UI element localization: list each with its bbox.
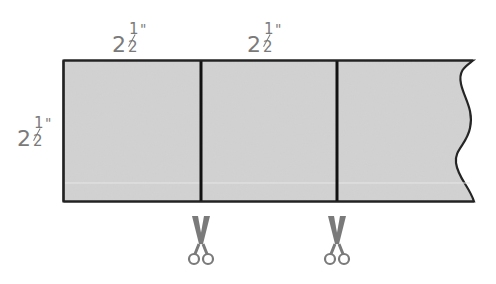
scissors-icon (323, 216, 351, 268)
inch-mark: " (45, 116, 50, 130)
dimension-whole: 2 (247, 34, 261, 56)
scissors-icon (187, 216, 215, 268)
dimension-whole: 2 (17, 128, 31, 150)
dimension-denominator: 2 (263, 40, 273, 55)
dimension-denominator: 2 (128, 40, 138, 55)
inch-mark: " (140, 22, 145, 36)
dimension-label-top-middle: 2 1 2 " (247, 22, 287, 62)
dimension-label-top-left: 2 1 2 " (112, 22, 152, 62)
fabric-strip-cutting-diagram: 2 1 2 " 2 1 2 " 2 1 2 " (0, 0, 496, 284)
dimension-whole: 2 (112, 34, 126, 56)
dimension-label-left-height: 2 1 2 " (17, 116, 57, 156)
inch-mark: " (275, 22, 280, 36)
dimension-denominator: 2 (33, 134, 43, 149)
